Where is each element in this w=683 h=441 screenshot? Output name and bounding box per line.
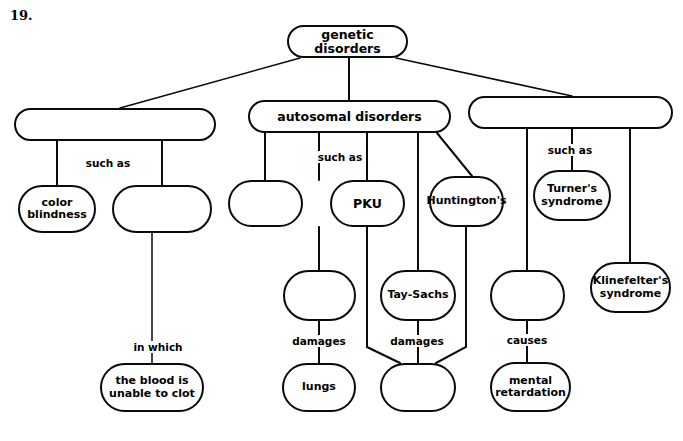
node-label: mentalretardation [492, 375, 569, 400]
node-pku[interactable]: PKU [330, 180, 405, 227]
concept-map-canvas: 19. [0, 0, 683, 441]
node-nervous-system-blank[interactable] [490, 270, 565, 321]
edge-autosomal-to-huntingtons [437, 133, 472, 176]
node-cystic-fibrosis-blank[interactable] [228, 180, 303, 227]
node-label: Klinefelter'ssyndrome [590, 275, 671, 300]
node-label: Huntington's [423, 195, 509, 207]
node-label: genetic disorders [289, 28, 406, 56]
node-label: lungs [299, 381, 339, 393]
node-color-blindness[interactable]: colorblindness [18, 185, 96, 233]
node-brain-blank[interactable] [380, 363, 456, 412]
node-label: PKU [350, 197, 385, 211]
link-label-causes: causes [505, 334, 549, 346]
node-hemophilia-blank[interactable] [112, 185, 212, 233]
link-label-such-as-right: such as [546, 144, 594, 156]
node-tay-sachs[interactable]: Tay-Sachs [380, 270, 456, 321]
node-label: Tay-Sachs [384, 289, 451, 301]
link-label-such-as-left: such as [84, 157, 132, 169]
node-klinefelters-syndrome[interactable]: Klinefelter'ssyndrome [590, 262, 671, 313]
node-chromosomal-group[interactable] [468, 96, 673, 129]
node-label: the blood isunable to clot [106, 375, 198, 400]
node-turners-syndrome[interactable]: Turner'ssyndrome [533, 170, 611, 221]
node-huntingtons[interactable]: Huntington's [429, 176, 504, 227]
node-label: Turner'ssyndrome [538, 183, 605, 208]
link-label-damages-lungs: damages [290, 335, 348, 347]
node-label: autosomal disorders [274, 110, 424, 124]
edge-genetic-to-chromosomal [396, 58, 572, 96]
node-label: colorblindness [24, 197, 90, 222]
node-lungs[interactable]: lungs [282, 363, 356, 412]
node-blood-clot[interactable]: the blood isunable to clot [100, 363, 204, 412]
node-genetic-disorders[interactable]: genetic disorders [287, 25, 408, 58]
node-mucus-blank[interactable] [283, 270, 356, 321]
node-autosomal-disorders[interactable]: autosomal disorders [248, 100, 451, 133]
node-sex-linked-group[interactable] [14, 108, 216, 141]
link-label-in-which: in which [131, 341, 184, 353]
link-label-damages-brain: damages [388, 335, 446, 347]
node-mental-retardation[interactable]: mentalretardation [490, 362, 571, 412]
link-label-such-as-middle: such as [316, 151, 364, 163]
